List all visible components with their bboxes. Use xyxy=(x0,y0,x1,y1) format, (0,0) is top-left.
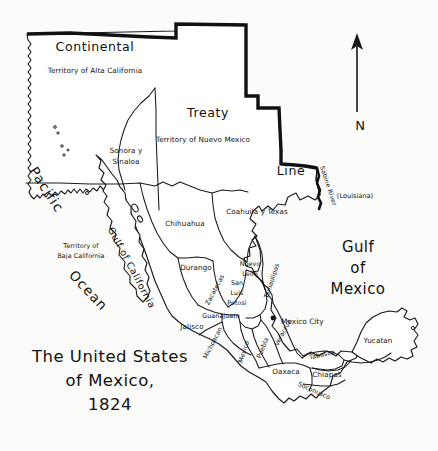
label-yucatan: Yucatan xyxy=(363,336,393,345)
mexico-city-dot[interactable] xyxy=(271,316,276,321)
map-svg: N Mexico City Continental Treaty Line Pa… xyxy=(0,0,438,451)
label-coahuila-y-texas: Coahuila y Texas xyxy=(226,207,288,216)
label-chihuahua: Chihuahua xyxy=(165,219,205,228)
label-oaxaca: Oaxaca xyxy=(272,367,300,376)
label-gulf-of-mexico-line1: Gulf xyxy=(342,238,374,256)
label-chiapas: Chiapas xyxy=(312,370,342,379)
compass-north-label: N xyxy=(355,118,365,133)
north-arrow-icon xyxy=(351,33,363,112)
label-gulf-of-mexico-line3: Mexico xyxy=(331,280,386,298)
label-jalisco: Jalisco xyxy=(179,322,203,331)
label-san-luis-potosi-line3: Potosi xyxy=(227,299,247,307)
map-title-line1: The United States xyxy=(31,347,188,366)
label-territory-alta-california: Territory of Alta California xyxy=(47,66,143,75)
label-san-luis-potosi-line2: Luis xyxy=(231,289,244,297)
label-line: Line xyxy=(277,163,305,178)
island-offshore-4 xyxy=(54,126,57,129)
map-canvas: N Mexico City Continental Treaty Line Pa… xyxy=(0,0,438,451)
label-continental: Continental xyxy=(56,39,135,54)
island-offshore-5 xyxy=(57,132,59,134)
label-sonora-sinaloa-line1: Sonora y xyxy=(110,146,143,155)
label-sonora-sinaloa-line2: Sinaloa xyxy=(112,157,139,166)
label-san-luis-potosi-line1: San xyxy=(231,279,243,287)
island-offshore-3 xyxy=(86,192,89,195)
island-offshore-8 xyxy=(63,154,65,156)
island-offshore-7 xyxy=(67,149,69,151)
label-ocean: Ocean xyxy=(66,267,111,314)
label-durango: Durango xyxy=(180,263,212,272)
map-title-line2: of Mexico, xyxy=(65,371,154,390)
label-gulf-of-mexico-line2: of xyxy=(350,259,366,277)
label-sabine-river: Sabine River xyxy=(319,165,339,207)
label-treaty: Treaty xyxy=(186,105,229,120)
label-louisiana: (Louisiana) xyxy=(337,192,373,200)
label-nuevo-leon-line2: Leon xyxy=(242,270,258,278)
label-territory-nuevo-mexico: Territory of Nuevo Mexico xyxy=(155,135,250,144)
island-offshore-9 xyxy=(411,326,414,329)
label-territory-baja-california-line2: Baja California xyxy=(57,252,104,260)
label-territory-baja-california-line1: Territory of xyxy=(62,242,99,250)
label-guanajuato: Guanajuato xyxy=(202,312,240,320)
island-offshore-6 xyxy=(61,145,63,147)
map-title-year: 1824 xyxy=(88,395,132,414)
label-nuevo-leon-line1: Nuevo xyxy=(240,260,261,268)
